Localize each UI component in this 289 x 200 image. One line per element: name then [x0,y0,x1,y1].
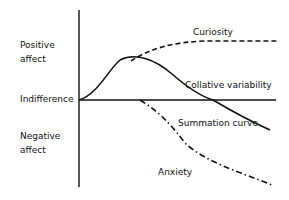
negative-label-line1: Negative [20,131,60,142]
negative-affect-label: Negative affect [20,131,60,156]
positive-affect-label: Positive affect [20,40,55,65]
positive-label-line1: Positive [20,40,55,51]
curiosity-curve [131,41,279,61]
positive-label-line2: affect [20,54,55,65]
indifference-label: Indifference [20,94,74,105]
summation-curve-label: Summation curve [178,118,258,129]
anxiety-label: Anxiety [158,167,192,178]
curiosity-label: Curiosity [193,27,233,38]
affect-diagram: Positive affect Indifference Negative af… [0,0,289,200]
collative-variability-label: Collative variability [185,80,272,91]
negative-label-line2: affect [20,145,60,156]
